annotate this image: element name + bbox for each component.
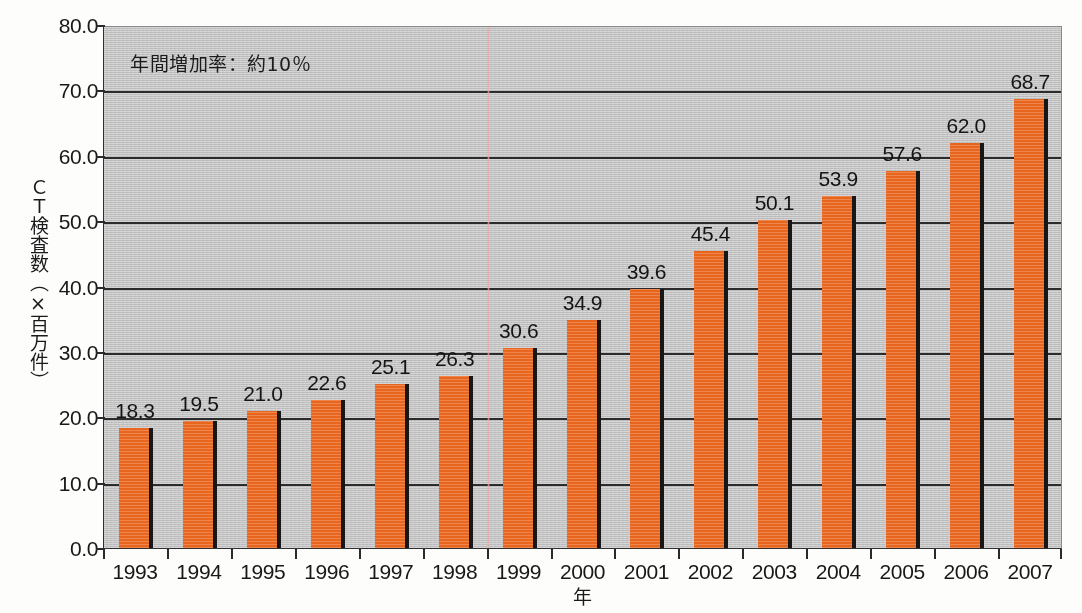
x-axis-tick-mark bbox=[742, 549, 744, 559]
bar-value-label: 26.3 bbox=[418, 347, 492, 371]
x-axis-tick-mark bbox=[167, 549, 169, 559]
x-axis-tick-mark bbox=[806, 549, 808, 559]
y-axis-tick-label: 70.0 bbox=[26, 79, 98, 103]
y-axis-tick-mark bbox=[96, 548, 105, 550]
bar-value-label: 34.9 bbox=[546, 291, 620, 315]
gridline bbox=[104, 91, 1061, 93]
x-axis-tick-mark bbox=[295, 549, 297, 559]
plot-area: 年間増加率：約10％ bbox=[103, 26, 1062, 549]
bar-value-label: 62.0 bbox=[929, 114, 1003, 138]
bar bbox=[183, 421, 217, 548]
y-axis-tick-label: 50.0 bbox=[26, 210, 98, 234]
bar bbox=[375, 384, 409, 548]
y-axis-tick-mark bbox=[96, 25, 105, 27]
bar bbox=[1014, 99, 1048, 548]
bar-value-label: 19.5 bbox=[162, 392, 236, 416]
x-axis-tick-mark bbox=[231, 549, 233, 559]
x-axis-title: 年 bbox=[103, 582, 1062, 609]
bar-value-label: 30.6 bbox=[482, 319, 556, 343]
x-axis-tick-mark bbox=[870, 549, 872, 559]
x-axis-tick-mark bbox=[934, 549, 936, 559]
x-axis-tick-mark bbox=[487, 549, 489, 559]
bar-value-label: 18.3 bbox=[98, 399, 172, 423]
bar-value-label: 53.9 bbox=[801, 167, 875, 191]
y-axis-tick-label: 80.0 bbox=[26, 14, 98, 38]
bar bbox=[822, 196, 856, 548]
y-axis-tick-label: 60.0 bbox=[26, 145, 98, 169]
bar bbox=[630, 289, 664, 548]
y-axis-tick-labels: 0.010.020.030.040.050.060.070.080.0 bbox=[20, 0, 98, 613]
bar bbox=[119, 428, 153, 548]
bar bbox=[311, 400, 345, 548]
bar-value-label: 39.6 bbox=[609, 260, 683, 284]
bar-value-label: 57.6 bbox=[865, 142, 939, 166]
y-axis-tick-label: 0.0 bbox=[26, 537, 98, 561]
bar bbox=[694, 251, 728, 548]
bar bbox=[758, 220, 792, 548]
bar bbox=[950, 143, 984, 548]
ct-exam-count-bar-chart: ＣＴ検査数（×百万件） 0.010.020.030.040.050.060.07… bbox=[0, 0, 1082, 613]
bar bbox=[567, 320, 601, 548]
x-axis-tick-mark bbox=[614, 549, 616, 559]
bar-value-label: 25.1 bbox=[354, 355, 428, 379]
y-axis-tick-label: 20.0 bbox=[26, 406, 98, 430]
x-axis-tick-mark bbox=[103, 549, 105, 559]
bar-value-label: 21.0 bbox=[226, 382, 300, 406]
bar-value-label: 68.7 bbox=[993, 70, 1067, 94]
bar bbox=[439, 376, 473, 548]
bar bbox=[503, 348, 537, 548]
bar-value-label: 50.1 bbox=[737, 191, 811, 215]
growth-rate-annotation: 年間増加率：約10％ bbox=[130, 49, 311, 76]
bar bbox=[886, 171, 920, 548]
bar-value-label: 45.4 bbox=[673, 222, 747, 246]
x-axis-tick-mark bbox=[678, 549, 680, 559]
x-axis-tick-mark bbox=[423, 549, 425, 559]
bar bbox=[247, 411, 281, 548]
y-axis-tick-label: 10.0 bbox=[26, 472, 98, 496]
y-axis-tick-label: 30.0 bbox=[26, 341, 98, 365]
x-axis-tick-mark bbox=[359, 549, 361, 559]
x-axis-tick-mark bbox=[998, 549, 1000, 559]
x-axis-tick-label: 2007 bbox=[991, 560, 1069, 584]
x-axis-tick-mark bbox=[551, 549, 553, 559]
bar-value-label: 22.6 bbox=[290, 371, 364, 395]
y-axis-tick-label: 40.0 bbox=[26, 276, 98, 300]
x-axis-tick-mark bbox=[1060, 549, 1062, 559]
